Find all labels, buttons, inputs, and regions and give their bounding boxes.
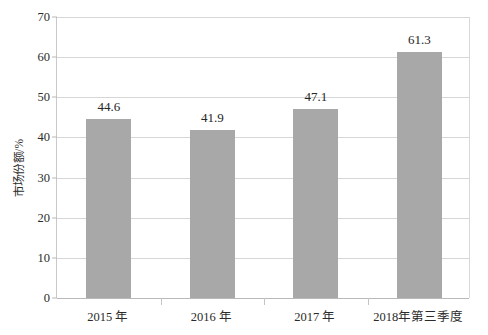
bar: 44.6 bbox=[86, 119, 131, 298]
y-tick-label: 20 bbox=[38, 210, 51, 225]
y-tick-label: 30 bbox=[38, 170, 51, 185]
bar-value-label: 61.3 bbox=[408, 32, 431, 48]
y-tick-mark bbox=[52, 217, 57, 218]
y-tick-mark bbox=[52, 257, 57, 258]
y-tick-label: 40 bbox=[38, 130, 51, 145]
y-tick-mark bbox=[52, 57, 57, 58]
category-separator bbox=[264, 298, 265, 305]
y-tick-mark bbox=[52, 137, 57, 138]
bar-value-label: 47.1 bbox=[304, 89, 327, 105]
y-tick-label: 60 bbox=[38, 50, 51, 65]
gridline bbox=[57, 298, 469, 299]
y-tick-label: 0 bbox=[44, 291, 50, 306]
x-tick-label: 2016 年 bbox=[160, 306, 264, 325]
plot-area: 01020304050607044.641.947.161.3 bbox=[56, 17, 470, 298]
y-tick-label: 50 bbox=[38, 90, 51, 105]
gridline bbox=[57, 17, 469, 18]
bar: 47.1 bbox=[293, 109, 338, 298]
x-tick-label: 2017 年 bbox=[263, 306, 367, 325]
bar-chart: 市场份额/% 01020304050607044.641.947.161.3 2… bbox=[0, 0, 488, 335]
bar: 41.9 bbox=[190, 130, 235, 298]
y-tick-label: 70 bbox=[38, 10, 51, 25]
y-tick-label: 10 bbox=[38, 250, 51, 265]
y-axis-title: 市场份额/% bbox=[10, 103, 26, 233]
y-tick-mark bbox=[52, 97, 57, 98]
bar-value-label: 44.6 bbox=[97, 99, 120, 115]
category-separator bbox=[368, 298, 369, 305]
y-tick-mark bbox=[52, 177, 57, 178]
bar-value-label: 41.9 bbox=[201, 110, 224, 126]
bar: 61.3 bbox=[397, 52, 442, 298]
x-tick-label: 2015 年 bbox=[56, 306, 160, 325]
y-tick-mark bbox=[52, 17, 57, 18]
category-separator bbox=[161, 298, 162, 305]
x-tick-label: 2018年第三季度 bbox=[367, 306, 471, 325]
y-tick-mark bbox=[52, 298, 57, 299]
